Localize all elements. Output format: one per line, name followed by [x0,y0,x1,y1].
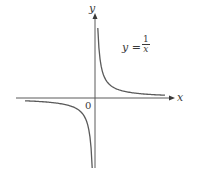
x-axis-label: x [177,92,183,103]
hyperbola-chart [0,0,197,179]
origin-label: 0 [85,101,91,111]
x-axis-arrow-icon [169,96,175,101]
curve-positive-branch [98,28,165,95]
equation-lhs: y = [122,42,141,53]
y-axis-label: y [89,3,95,14]
curve-negative-branch [25,101,92,168]
equation-fraction: 1 x [142,35,150,54]
equation-denominator: x [143,45,148,54]
